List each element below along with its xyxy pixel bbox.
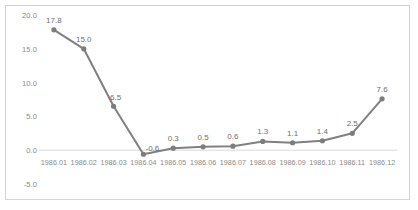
x-axis-tick-label: 1986.01 bbox=[41, 158, 67, 167]
y-axis-tick-label: 20.0 bbox=[9, 11, 37, 20]
y-axis-tick-label: 15.0 bbox=[9, 44, 37, 53]
x-axis-tick-label: 1986.02 bbox=[71, 158, 97, 167]
data-series-line bbox=[54, 30, 382, 154]
x-axis-tick-label: 1986.05 bbox=[160, 158, 186, 167]
x-axis-tick-label: 1986.11 bbox=[339, 158, 365, 167]
x-axis-tick-label: 1986.04 bbox=[130, 158, 156, 167]
x-axis-tick-label: 1986.03 bbox=[100, 158, 126, 167]
chart-container: 20.015.010.05.00.0-5.0 17.815.06.5-0.60.… bbox=[5, 5, 410, 200]
x-axis-tick-label: 1986.08 bbox=[250, 158, 276, 167]
x-axis-tick-label: 1986.07 bbox=[220, 158, 246, 167]
data-point-marker bbox=[320, 138, 325, 143]
data-point-marker bbox=[290, 140, 295, 145]
x-axis-tick-label: 1986.10 bbox=[309, 158, 335, 167]
x-axis-tick-label: 1986.06 bbox=[190, 158, 216, 167]
x-axis: 1986.011986.021986.031986.041986.051986.… bbox=[39, 158, 397, 172]
data-point-marker bbox=[379, 96, 384, 101]
data-point-marker bbox=[171, 146, 176, 151]
data-point-marker bbox=[141, 152, 146, 157]
data-point-marker bbox=[200, 144, 205, 149]
y-axis: 20.015.010.05.00.0-5.0 bbox=[6, 15, 37, 184]
data-point-marker bbox=[81, 46, 86, 51]
data-point-marker bbox=[350, 131, 355, 136]
y-axis-tick-label: 0.0 bbox=[9, 146, 37, 155]
data-point-marker bbox=[51, 27, 56, 32]
y-axis-tick-label: -5.0 bbox=[9, 180, 37, 189]
data-point-marker bbox=[111, 104, 116, 109]
data-point-marker bbox=[230, 144, 235, 149]
data-point-marker bbox=[260, 139, 265, 144]
x-axis-tick-label: 1986.12 bbox=[369, 158, 395, 167]
y-axis-tick-label: 5.0 bbox=[9, 112, 37, 121]
y-axis-tick-label: 10.0 bbox=[9, 78, 37, 87]
x-axis-tick-label: 1986.09 bbox=[279, 158, 305, 167]
